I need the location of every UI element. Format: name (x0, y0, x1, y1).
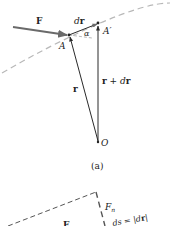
point-A-prime-dot (97, 22, 100, 25)
force-arrow (13, 27, 67, 35)
angle-alpha-label: α (84, 29, 90, 38)
point-A-dot (68, 34, 71, 37)
point-A-label: A (58, 41, 66, 51)
r-plus-dr-label: r + dr (102, 76, 131, 86)
trajectory-curve (2, 3, 170, 73)
ds-label: ds = |dr| (112, 212, 149, 226)
normal-component-label: Fn (104, 202, 115, 213)
origin-label: O (101, 138, 109, 148)
origin-dot (97, 141, 99, 143)
force-b-label: F (63, 220, 70, 226)
box-right-edge (96, 192, 105, 226)
work-diagram: F dr α A A′ r r + dr O (a) Fn F ds = |dr… (0, 0, 170, 226)
r-label: r (73, 84, 78, 94)
dr-label: dr (74, 16, 85, 26)
figure-a: F dr α A A′ r r + dr O (a) (2, 3, 170, 171)
point-A-prime-label: A′ (102, 26, 112, 36)
box-top-edge (8, 192, 96, 226)
figure-a-caption: (a) (91, 161, 103, 171)
figure-b: Fn F ds = |dr| (8, 192, 149, 226)
force-label: F (36, 16, 43, 26)
